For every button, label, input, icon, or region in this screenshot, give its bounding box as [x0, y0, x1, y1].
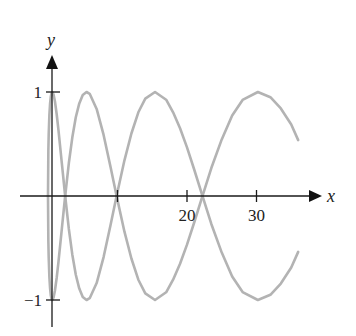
y-axis-label: y: [45, 30, 55, 50]
x-tick-label: 20: [179, 206, 196, 225]
y-tick-label: −1: [24, 291, 42, 310]
x-axis-label: x: [326, 186, 335, 206]
y-tick-label: 1: [34, 83, 43, 102]
y-axis-arrowhead-icon: [46, 55, 58, 69]
x-axis-arrowhead-icon: [309, 190, 322, 202]
chart-plot: 2030 1−1 x y: [0, 0, 356, 336]
x-ticks: 2030: [118, 190, 266, 225]
x-tick-label: 30: [248, 206, 265, 225]
